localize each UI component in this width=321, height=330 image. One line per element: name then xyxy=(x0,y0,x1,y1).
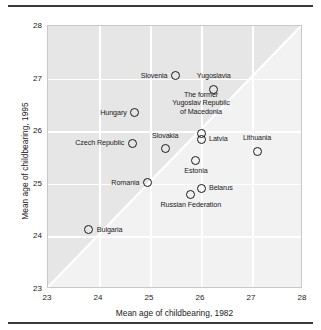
gridline-vertical xyxy=(99,26,101,287)
y-tick-label: 25 xyxy=(33,178,42,187)
data-point-label: Hungary xyxy=(100,108,126,117)
gridline-vertical xyxy=(252,26,254,287)
data-point-marker[interactable] xyxy=(197,135,206,144)
data-point-label: Romania xyxy=(111,178,139,187)
identity-reference-line xyxy=(48,26,301,287)
plot-area: SloveniaYugoslaviaHungaryThe former Yugo… xyxy=(47,25,302,288)
data-point-label: Russian Federation xyxy=(161,201,222,210)
data-point-label: Slovenia xyxy=(141,72,168,81)
data-point-label: Slovakia xyxy=(152,132,178,141)
bottom-rule xyxy=(8,322,313,324)
gridline-horizontal xyxy=(48,236,301,238)
data-point-marker[interactable] xyxy=(191,156,200,165)
y-tick-label: 26 xyxy=(33,126,42,135)
data-point-marker[interactable] xyxy=(161,144,170,153)
data-point-label: Czech Republic xyxy=(75,139,124,148)
top-rule xyxy=(8,5,313,7)
y-tick-label: 28 xyxy=(33,21,42,30)
y-tick-label: 24 xyxy=(33,231,42,240)
x-axis-title: Mean age of childbearing, 1982 xyxy=(47,308,302,318)
data-point-label: Latvia xyxy=(209,135,228,144)
y-axis-title: Mean age of childbearing, 1995 xyxy=(20,81,30,241)
y-tick-label: 23 xyxy=(33,284,42,293)
data-point-marker[interactable] xyxy=(197,184,206,193)
y-tick-label: 27 xyxy=(33,73,42,82)
data-point-marker[interactable] xyxy=(253,147,262,156)
scatter-plot-figure: SloveniaYugoslaviaHungaryThe former Yugo… xyxy=(0,0,321,330)
data-point-label: Bulgaria xyxy=(97,225,123,234)
data-point-label: Estonia xyxy=(184,167,207,176)
x-tick-label: 28 xyxy=(298,293,307,302)
data-point-label: Lithuania xyxy=(243,135,271,144)
x-tick-label: 26 xyxy=(196,293,205,302)
gridline-horizontal xyxy=(48,184,301,186)
gridline-vertical xyxy=(150,26,152,287)
x-tick-label: 24 xyxy=(94,293,103,302)
data-point-marker[interactable] xyxy=(128,139,137,148)
x-tick-label: 25 xyxy=(145,293,154,302)
data-point-label: Yugoslavia xyxy=(197,73,231,82)
data-point-label: The former Yugoslav Republic of Macedoni… xyxy=(172,91,230,117)
x-tick-label: 27 xyxy=(247,293,256,302)
x-tick-label: 23 xyxy=(43,293,52,302)
gridline-vertical xyxy=(201,26,203,287)
data-point-label: Belarus xyxy=(209,184,233,193)
